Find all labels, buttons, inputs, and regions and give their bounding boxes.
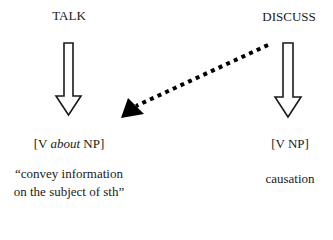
arrowhead-icon bbox=[121, 98, 144, 118]
meaning-line-2: on the subject of sth” bbox=[14, 184, 124, 199]
pattern-italic-about: about bbox=[50, 136, 80, 151]
pattern-suffix: NP] bbox=[80, 136, 104, 151]
meaning-causation: causation bbox=[265, 171, 314, 186]
meaning-line-1: “convey information bbox=[15, 166, 123, 181]
down-arrow-icon-discuss bbox=[275, 43, 301, 117]
pattern-v-about-np: [V about NP] bbox=[34, 136, 105, 151]
pattern-prefix: [V bbox=[34, 136, 51, 151]
dotted-arrow-icon bbox=[121, 45, 268, 118]
pattern-v-np: [V NP] bbox=[271, 136, 309, 151]
down-arrow-icon-talk bbox=[56, 43, 81, 115]
